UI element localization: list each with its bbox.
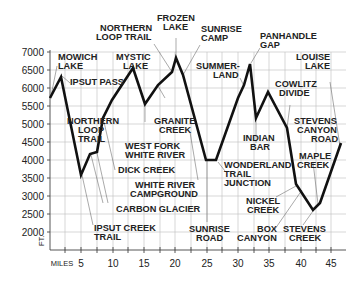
y-tick: 7000 [22,47,45,58]
label-frozen-lake: LAKE [163,22,188,32]
label-box-canyon: CANYON [237,233,277,243]
label-carbon-glacier: CARBON GLACIER [116,204,201,214]
x-tick-labels: MILES 5 10 15 20 25 30 35 40 45 [51,258,337,269]
x-tick: 25 [201,258,213,269]
x-axis-label: MILES [51,259,74,268]
label-louise-lake: LAKE [305,61,330,71]
label-ipsut-pass: IPSUT PASS [70,77,124,87]
label-summerland: LAND [213,70,239,80]
y-tick: 5500 [22,101,45,112]
x-tick: 40 [295,258,307,269]
label-mystic-lake: LAKE [123,61,148,71]
label-white-river-campground: CAMPGROUND [130,189,198,199]
label-dick-creek: DICK CREEK [118,165,176,175]
x-tick: 15 [138,258,150,269]
label-maple-creek: CREEK [297,160,330,170]
y-axis-label: FT. [37,236,46,246]
y-tick: 3000 [22,191,45,202]
y-tick: 6500 [22,65,45,76]
y-tick: 5000 [22,119,45,130]
x-tick: 20 [169,258,181,269]
y-tick: 2500 [22,209,45,220]
y-tick-labels: 7000 6500 6000 5500 5000 4500 4000 3500 … [22,47,45,238]
y-tick: 4500 [22,137,45,148]
label-wonderland-trail-junction: JUNCTION [224,178,271,188]
label-northern-loop-trail: TRAIL [78,134,105,144]
label-nickel-creek: CREEK [247,205,280,215]
label-northern-loop-trail-2: LOOP TRAIL [96,32,152,42]
x-tick: 10 [107,258,119,269]
label-mowich-lake: LAKE [58,61,83,71]
label-granite-creek: CREEK [159,125,192,135]
elevation-profile-chart: 7000 6500 6000 5500 5000 4500 4000 3500 … [0,0,361,282]
label-cowlitz-divide: DIVIDE [279,88,310,98]
x-tick: 30 [232,258,244,269]
y-tick: 6000 [22,83,45,94]
label-west-fork-white-river: WHITE RIVER [125,150,186,160]
label-panhandle-gap: GAP [260,40,280,50]
label-stevens-canyon-road: ROAD [311,134,338,144]
label-sunrise-camp: CAMP [201,33,228,43]
label-indian-bar: BAR [250,142,270,152]
x-tick: 5 [78,258,84,269]
y-tick: 3500 [22,173,45,184]
label-stevens-creek: CREEK [289,233,322,243]
x-tick: 45 [325,258,337,269]
y-tick: 4000 [22,155,45,166]
label-sunrise-road: ROAD [196,233,223,243]
label-ipsut-creek-trail: TRAIL [94,232,121,242]
x-tick: 35 [263,258,275,269]
